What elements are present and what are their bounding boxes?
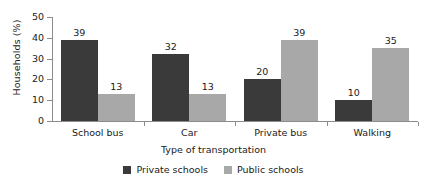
legend-item: Public schools bbox=[224, 164, 304, 175]
bar: 39 bbox=[61, 40, 98, 121]
y-axis-tick-label: 40 bbox=[32, 32, 44, 43]
bar: 13 bbox=[189, 94, 226, 121]
x-axis-category-label: Walking bbox=[354, 127, 391, 138]
bar-value-label: 20 bbox=[256, 66, 268, 77]
legend-item: Private schools bbox=[123, 164, 208, 175]
x-axis-title: Type of transportation bbox=[0, 144, 427, 155]
bar-value-label: 35 bbox=[385, 35, 397, 46]
y-axis-tick-mark bbox=[47, 59, 52, 60]
x-axis-category-label: School bus bbox=[72, 127, 124, 138]
y-axis-tick-label: 0 bbox=[38, 115, 44, 126]
bar-chart-figure: Households (%) 50403020100 3913321320391… bbox=[0, 0, 427, 182]
bar-value-label: 39 bbox=[293, 27, 305, 38]
x-axis-tick-mark bbox=[327, 122, 328, 126]
plot-area: 50403020100 3913321320391035 bbox=[52, 17, 418, 122]
bar-value-label: 10 bbox=[348, 87, 360, 98]
bar: 10 bbox=[335, 100, 372, 121]
bar: 35 bbox=[372, 48, 409, 121]
legend-swatch-icon bbox=[224, 166, 232, 174]
y-axis-tick-mark bbox=[47, 79, 52, 80]
chart-legend: Private schoolsPublic schools bbox=[0, 164, 427, 175]
legend-swatch-icon bbox=[123, 166, 131, 174]
y-axis-title: Households (%) bbox=[11, 0, 22, 118]
y-axis-tick-mark bbox=[47, 100, 52, 101]
y-axis-tick-label: 10 bbox=[32, 94, 44, 105]
bar: 20 bbox=[244, 79, 281, 121]
y-axis-tick-mark bbox=[47, 121, 52, 122]
y-axis-tick-label: 30 bbox=[32, 53, 44, 64]
legend-label: Public schools bbox=[237, 164, 304, 175]
legend-label: Private schools bbox=[136, 164, 208, 175]
x-axis-category-label: Car bbox=[181, 127, 197, 138]
x-axis-category-label: Private bus bbox=[254, 127, 307, 138]
bar: 32 bbox=[152, 54, 189, 121]
y-axis-tick-label: 50 bbox=[32, 11, 44, 22]
bar-value-label: 39 bbox=[73, 27, 85, 38]
y-axis-line bbox=[52, 17, 53, 122]
x-axis-tick-mark bbox=[235, 122, 236, 126]
y-axis-tick-mark bbox=[47, 17, 52, 18]
bar: 39 bbox=[281, 40, 318, 121]
y-axis-tick-mark bbox=[47, 38, 52, 39]
y-axis-tick-label: 20 bbox=[32, 73, 44, 84]
x-axis-tick-mark bbox=[144, 122, 145, 126]
x-axis-tick-mark bbox=[418, 122, 419, 126]
bar-value-label: 32 bbox=[165, 41, 177, 52]
bar-value-label: 13 bbox=[110, 81, 122, 92]
bar: 13 bbox=[98, 94, 135, 121]
bar-value-label: 13 bbox=[202, 81, 214, 92]
